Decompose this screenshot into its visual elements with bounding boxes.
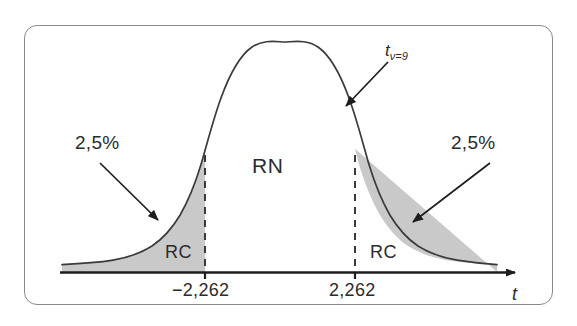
acceptance-region-label: RN [252,155,283,176]
rejection-region-label-right: RC [370,243,397,261]
curve-name-label: tν=9 [385,42,408,62]
tick-label-negative-critical-value: −2,262 [172,281,229,299]
tail-percentage-left: 2,5% [75,133,120,152]
rejection-region-label-left: RC [165,243,192,261]
x-axis-label: t [512,285,517,303]
tail-percentage-right: 2,5% [451,133,496,152]
annotation-arrow-left-tail [100,163,158,220]
annotation-arrow-right-tail [413,163,490,222]
curve-degrees-of-freedom: ν=9 [390,50,408,62]
t-distribution-plot [0,0,577,326]
tick-label-positive-critical-value: 2,262 [329,281,376,299]
figure-canvas: 2,5% 2,5% RN RC RC −2,262 2,262 t tν=9 [0,0,577,326]
annotation-arrow-curve [346,62,388,106]
